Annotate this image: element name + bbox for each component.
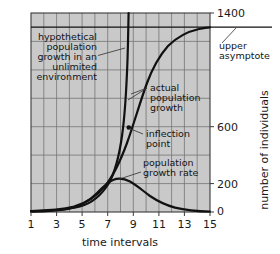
x-tick-label-7: 7 <box>104 218 111 231</box>
growth-rate-label-line-2: growth rate <box>143 167 199 178</box>
x-tick-label-13: 13 <box>177 218 191 231</box>
x-tick-label-5: 5 <box>79 218 86 231</box>
y-tick-label-200: 200 <box>217 178 238 191</box>
y-tick-label-600: 600 <box>217 121 238 134</box>
population-growth-chart: hypothetical population growth in an unl… <box>0 0 280 254</box>
hypothetical-growth-label-line-5: environment <box>36 71 97 82</box>
actual-growth-label-line-3: growth <box>150 102 183 113</box>
y-tick-label-0: 0 <box>217 205 224 218</box>
upper-asymptote-label-line-2: asymptote <box>219 50 270 61</box>
x-axis-title: time intervals <box>82 236 158 249</box>
growth-rate-label: population growth rate <box>143 157 199 178</box>
x-tick-label-3: 3 <box>53 218 60 231</box>
x-tick-label-1: 1 <box>28 218 35 231</box>
x-tick-label-9: 9 <box>130 218 137 231</box>
inflection-point-label-line-2: point <box>146 138 171 149</box>
x-tick-label-11: 11 <box>152 218 166 231</box>
hypothetical-growth-label: hypothetical population growth in an unl… <box>36 31 97 82</box>
chart-svg: hypothetical population growth in an unl… <box>0 0 280 254</box>
y-axis-title: number of individuals <box>258 90 271 210</box>
x-tick-label-15: 15 <box>203 218 217 231</box>
y-tick-label-1400: 1400 <box>217 7 245 20</box>
